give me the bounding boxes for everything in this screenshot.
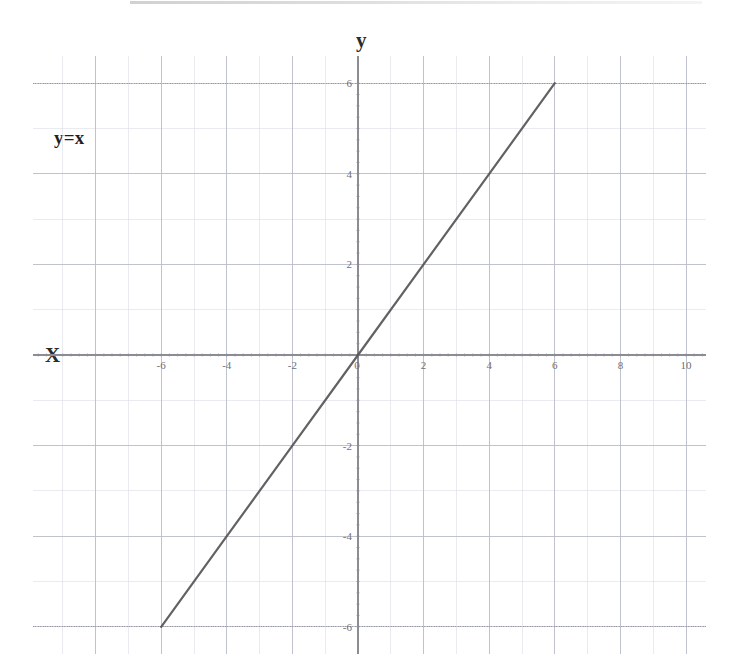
y-tick-label: -6 [343,621,353,633]
graph-figure: y X y=x -6-4-20246810 642-2-4-6 [0,0,731,654]
y-tick-label: 6 [347,77,353,89]
x-tick-label: -4 [222,359,232,371]
axis-lines [33,56,706,654]
y-tick-label: 4 [347,168,353,180]
x-tick-label: 8 [618,359,624,371]
x-tick-label: -6 [157,359,167,371]
x-tick-label: 2 [421,359,427,371]
y-tick-label: 2 [347,258,353,270]
x-tick-label: 4 [486,359,492,371]
y-tick-label: -4 [343,530,353,542]
x-tick-label: 6 [552,359,558,371]
x-tick-label: 10 [681,359,693,371]
y-tick-label: -2 [343,440,352,452]
x-tick-label: 0 [354,359,360,371]
x-tick-label: -2 [288,359,297,371]
plot-canvas: -6-4-20246810 642-2-4-6 [0,0,731,654]
x-tick-labels: -6-4-20246810 [157,359,692,371]
